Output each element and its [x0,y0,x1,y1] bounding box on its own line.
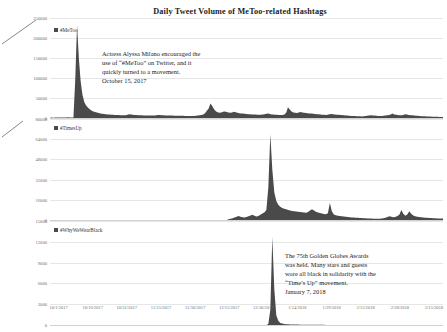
series-area-timesup [50,119,443,220]
x-axis-tick-label: 10/1/2017 [50,305,68,310]
y-axis-tick-label: 9000 [7,260,47,265]
gridline [50,325,443,326]
annotation-leader-line-timesup [0,119,26,139]
x-axis-tick-label: 2/28/2018 [391,305,409,310]
x-axis-tick-label: 11/30/2017 [185,305,205,310]
x-axis-tick-label: 3/15/2018 [425,305,443,310]
y-axis-tick-label: 6000 [7,281,47,286]
y-axis-tick-label: 32000 [7,177,47,182]
legend-label-whywewearblack: #WhyWeWearBlack [60,227,102,233]
annotation-timesup: The 75th Golden Globes Awards was held. … [285,251,447,296]
plot-area-timesup: 80000640004800032000160000 [50,119,443,220]
x-axis-tick-label: 1/29/2018 [322,305,340,310]
y-axis-tick-label: 12000 [7,239,47,244]
y-axis-tick-label: 16000 [7,197,47,202]
annotation-metoo: Actress Alyssa Milano encouraged the use… [102,49,282,85]
x-axis-tick-label: 11/15/2017 [151,305,171,310]
legend-label-metoo: #MeToo [60,27,78,33]
y-axis-tick-label: 15000 [7,219,47,224]
x-axis: 10/1/201710/16/201710/31/201711/15/20171… [50,305,443,317]
legend-swatch-icon [54,228,58,232]
legend-whywewearblack: #WhyWeWearBlack [54,227,102,233]
legend-swatch-icon [54,28,58,32]
legend-label-timesup: #TimesUp [60,125,82,131]
annotation-leader-line-metoo [0,18,40,46]
x-axis-tick-label: 12/30/2017 [253,305,274,310]
x-axis-tick-label: 12/15/2017 [219,305,240,310]
legend-timesup: #TimesUp [54,125,82,131]
y-axis-tick-label: 3000 [7,302,47,307]
y-axis-tick-label: 100000 [7,76,47,81]
legend-swatch-icon [54,126,58,130]
chart-panel-timesup: 80000640004800032000160000 #TimesUp The … [0,119,447,220]
chart-panel-metoo: 250000200000150000100000500000 #MeToo Ac… [0,18,447,118]
y-axis-tick-label: 0 [7,323,47,328]
x-axis-tick-label: 2/13/2018 [357,305,375,310]
chart-title: Daily Tweet Volume of MeToo-related Hash… [120,7,360,16]
x-axis-tick-label: 10/16/2017 [82,305,103,310]
y-axis-tick-label: 48000 [7,157,47,162]
y-axis-tick-label: 150000 [7,56,47,61]
legend-metoo: #MeToo [54,27,78,33]
x-axis-tick-label: 1/14/2018 [288,305,306,310]
y-axis-tick-label: 50000 [7,96,47,101]
x-axis-tick-label: 10/31/2017 [117,305,138,310]
chart-figure: Daily Tweet Volume of MeToo-related Hash… [0,0,447,332]
